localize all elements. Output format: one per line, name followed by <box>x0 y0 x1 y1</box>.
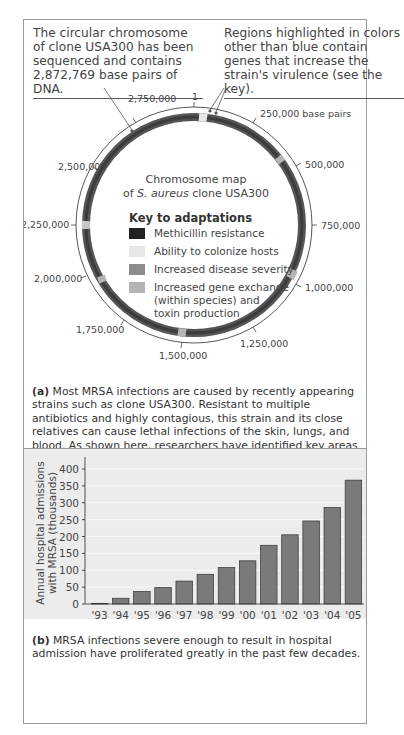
x-tick-label: '94 <box>113 609 130 621</box>
bar-00 <box>239 561 256 604</box>
key-label-gene-exchange-3: toxin production <box>154 307 240 319</box>
x-tick-label: '97 <box>176 609 192 621</box>
bar-04 <box>324 507 341 604</box>
bar-98 <box>197 574 214 604</box>
bar-03 <box>303 521 320 604</box>
tick-label-1500000: 1,500,000 <box>159 350 207 361</box>
y-tick-label: 350 <box>59 480 79 492</box>
key-swatch-methicillin <box>129 228 145 239</box>
y-tick-label: 300 <box>59 497 79 509</box>
bar-05 <box>345 480 362 604</box>
key-label-gene-exchange: Increased gene exchange <box>154 281 289 293</box>
tick-label-2000000: 2,000,000 <box>34 273 82 284</box>
key-label-severity: Increased disease severity <box>154 263 294 275</box>
caption-a-label: (a) <box>32 385 49 398</box>
y-tick-label: 250 <box>59 514 79 526</box>
tick-label-1000000: 1,000,000 <box>305 282 353 293</box>
bar-99 <box>218 568 235 604</box>
chromosome-map: 1 250,000 base pairs 500,000 750,000 1,0… <box>24 20 368 380</box>
map-title-line1: Chromosome map <box>146 173 247 186</box>
key-label-methicillin: Methicillin resistance <box>154 227 265 239</box>
key-swatch-colonize <box>129 246 145 257</box>
tick-label-1250000: 1,250,000 <box>240 338 288 349</box>
key-label-colonize: Ability to colonize hosts <box>154 245 279 257</box>
x-tick-label: '96 <box>155 609 172 621</box>
bar-95 <box>134 592 151 604</box>
key-swatch-severity <box>129 264 145 275</box>
map-title-line2: of S. aureus clone USA300 <box>123 187 269 200</box>
key-title: Key to adaptations <box>129 211 252 225</box>
y-tick-label: 0 <box>72 598 79 610</box>
x-tick-label: '93 <box>91 609 107 621</box>
tick-label-250000: 250,000 base pairs <box>260 108 351 119</box>
x-tick-label: '95 <box>134 609 150 621</box>
bar-96 <box>155 587 172 604</box>
bar-01 <box>261 545 278 604</box>
caption-b-text: MRSA infections severe enough to result … <box>32 634 360 660</box>
y-tick-label: 200 <box>59 531 79 543</box>
tick-label-1750000: 1,750,000 <box>76 324 124 335</box>
key-label-gene-exchange-2: (within species) and <box>154 294 260 306</box>
x-tick-label: '02 <box>282 609 298 621</box>
y-tick-label: 50 <box>66 581 79 593</box>
x-tick-label: '03 <box>303 609 319 621</box>
bar-97 <box>176 581 193 604</box>
x-tick-label: '99 <box>218 609 234 621</box>
x-tick-label: '05 <box>345 609 361 621</box>
tick-label-500000: 500,000 <box>305 159 344 170</box>
tick-label-2500000: 2,500,000 <box>58 161 106 172</box>
figure-frame: The circular chromosome of clone USA300 … <box>23 19 367 724</box>
bar-94 <box>112 598 129 604</box>
bar-chart: 050100150200250300350400 '93'94'95'96'97… <box>24 449 368 629</box>
x-tick-label: '98 <box>197 609 213 621</box>
y-tick-label: 150 <box>59 547 79 559</box>
tick-label-750000: 750,000 <box>321 220 360 231</box>
x-tick-label: '00 <box>240 609 256 621</box>
y-axis-label-line1: Annual hospital admissions <box>34 461 46 604</box>
tick-label-1: 1 <box>192 91 198 102</box>
x-tick-label: '04 <box>324 609 341 621</box>
tick-label-2750000: 2,750,000 <box>128 93 176 104</box>
y-tick-label: 400 <box>59 463 79 475</box>
y-axis-label-line2: with MRSA (thousands) <box>46 472 58 594</box>
y-tick-label: 100 <box>59 564 79 576</box>
tick-label-2250000: 2,250,000 <box>24 219 69 230</box>
caption-b: (b) MRSA infections severe enough to res… <box>32 634 362 661</box>
bar-02 <box>282 535 299 604</box>
key-swatch-gene-exchange <box>129 282 145 293</box>
x-axis-label: Year <box>214 627 238 629</box>
caption-b-label: (b) <box>32 634 50 647</box>
x-tick-label: '01 <box>261 609 277 621</box>
